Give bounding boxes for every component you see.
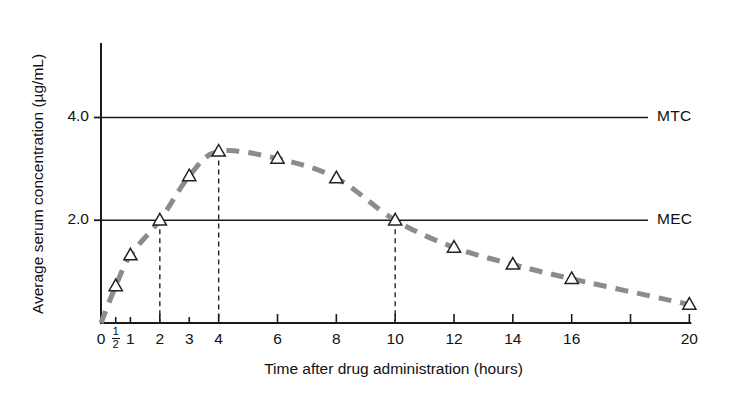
data-point-marker (124, 248, 137, 260)
data-point-marker (330, 171, 343, 183)
pharmacokinetics-chart: Average serum concentration (µg/mL) Time… (0, 0, 737, 409)
plot-area (0, 0, 737, 409)
data-point-marker (153, 213, 166, 225)
